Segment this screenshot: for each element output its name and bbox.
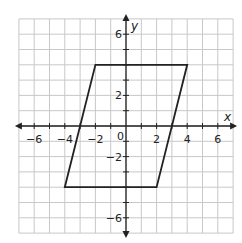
tick-label: −2 (87, 133, 103, 146)
axes (15, 14, 237, 238)
coordinate-plane: −6−4−224662−2−6 x y 0 (0, 0, 242, 243)
tick-label: −6 (26, 133, 42, 146)
tick-label: 4 (184, 133, 191, 146)
origin-label: 0 (117, 130, 124, 143)
tick-label: 2 (115, 89, 122, 102)
tick-label: −4 (57, 133, 73, 146)
tick-label: −6 (106, 212, 122, 225)
y-axis-label: y (130, 19, 139, 33)
tick-label: 2 (153, 133, 160, 146)
tick-label: 6 (115, 28, 122, 41)
x-axis-label: x (223, 110, 232, 124)
tick-label: −2 (106, 151, 122, 164)
tick-label: 6 (214, 133, 221, 146)
